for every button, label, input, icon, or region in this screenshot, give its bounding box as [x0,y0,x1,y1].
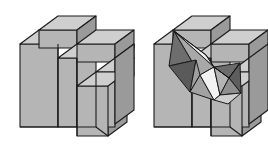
right-figure [0,0,268,148]
rblock-rear-right-slab [249,44,268,124]
figure-canvas: Plain stepped block solid Stepped block … [0,0,268,148]
rblock-step2-front-face [211,44,249,62]
